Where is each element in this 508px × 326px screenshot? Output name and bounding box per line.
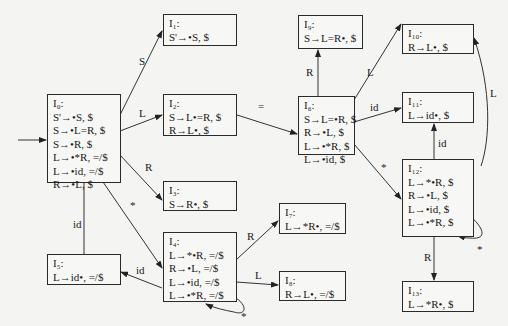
lr-item: S'→•S, $ [169, 31, 231, 45]
state-title: I₆: [304, 99, 349, 113]
lr-item: S→L•=R, $ [169, 111, 231, 125]
state-I13: I₁₃: L→*R•, $ [402, 281, 474, 312]
state-title: I₀: [53, 97, 115, 111]
edge-label-I0-I3: R [145, 162, 152, 173]
state-I11: I₁₁: L→id•, $ [402, 92, 474, 123]
state-I8: I₈: R→L•, =/$ [279, 271, 346, 301]
edge-label-I0-I2: L [139, 108, 146, 119]
edge-label-I12-I13: R [424, 252, 431, 263]
lr-item: L→•*R, =/$ [53, 151, 115, 165]
state-I5: I₅: L→id•, =/$ [47, 254, 121, 285]
lr-item: R→L•, $ [408, 41, 468, 55]
state-title: I₃: [169, 184, 231, 198]
edge-label-I6-I10: L [367, 67, 374, 78]
edge-label-I6-I11: id [370, 102, 379, 113]
edge-label-I4-self: * [241, 311, 247, 322]
state-title: I₂: [169, 97, 231, 111]
lr-item: S→L=•R, $ [304, 113, 349, 127]
lr-item: R→•L, $ [53, 178, 115, 192]
lr-item: R→L•, =/$ [285, 288, 340, 302]
state-I10: I₁₀: R→L•, $ [402, 24, 474, 54]
lr-item: L→id•, =/$ [53, 271, 115, 285]
lr-item: R→•L, =/$ [169, 262, 231, 276]
state-title: I₈: [285, 274, 340, 288]
lr-item: R→L•, $ [169, 124, 231, 138]
lr-item: L→•*R, =/$ [169, 289, 231, 303]
state-I2: I₂: S→L•=R, $ R→L•, $ [163, 94, 237, 136]
state-I1: I₁: S'→•S, $ [163, 14, 237, 46]
lr-item: L→*R•, $ [408, 298, 468, 312]
lr-item: L→•*R, $ [408, 216, 468, 230]
edge-label-I6-I9: R [306, 67, 313, 78]
lr-item: L→•id, =/$ [169, 276, 231, 290]
lr-item: R→•L, $ [408, 189, 468, 203]
lr-item: L→•id, =/$ [53, 165, 115, 179]
state-I9: I₉: S→L=R•, $ [298, 15, 363, 49]
state-I4: I₄: L→*•R, =/$ R→•L, =/$ L→•id, =/$ L→•*… [163, 232, 237, 302]
state-I3: I₃: S→R•, $ [163, 181, 237, 211]
edge-label-I4-I5: id [136, 265, 145, 276]
lr-item: S→•R, $ [53, 138, 115, 152]
state-I7: I₇: L→*R•, =/$ [279, 203, 346, 234]
state-title: I₉: [304, 18, 357, 32]
state-I6: I₆: S→L=•R, $ R→•L, $ L→•*R, $ L→•id, $ [298, 96, 355, 155]
lr-item: L→*•R, $ [408, 176, 468, 190]
edge-label-I12-I11: id [438, 138, 447, 149]
lr-item: L→•*R, $ [304, 140, 349, 154]
state-title: I₁₁: [408, 95, 468, 109]
edge-label-I0-I1: S [139, 56, 145, 67]
state-title: I₅: [53, 257, 115, 271]
edge-label-I2-I6: = [258, 101, 264, 112]
lr-item: L→id•, $ [408, 109, 468, 123]
edge-label-I4-I8: L [255, 270, 262, 281]
state-title: I₁₂: [408, 162, 468, 176]
state-I12: I₁₂: L→*•R, $ R→•L, $ L→•id, $ L→•*R, $ [402, 159, 474, 237]
state-title: I₄: [169, 235, 231, 249]
state-title: I₁₃: [408, 284, 468, 298]
edge-label-I0-I4: * [130, 200, 136, 211]
lr-item: S→•L=R, $ [53, 124, 115, 138]
edge-label-I12-self: * [477, 244, 483, 255]
lr-item: S→L=R•, $ [304, 32, 357, 46]
edge-label-I6-I12: * [381, 162, 387, 173]
lr-item: L→*R•, =/$ [285, 220, 340, 234]
state-title: I₇: [285, 206, 340, 220]
lr-item: S'→•S, $ [53, 111, 115, 125]
lr-item: S→R•, $ [169, 198, 231, 212]
edge-label-I12-I10: L [490, 88, 497, 99]
edge-label-I4-I7: R [247, 231, 254, 242]
state-I0: I₀: S'→•S, $ S→•L=R, $ S→•R, $ L→•*R, =/… [47, 94, 121, 183]
edge-label-I0-I5: id [73, 219, 82, 230]
lr-item: L→•id, $ [408, 203, 468, 217]
state-title: I₁₀: [408, 27, 468, 41]
state-title: I₁: [169, 17, 231, 31]
lr-item: L→*•R, =/$ [169, 249, 231, 263]
lr-item: L→•id, $ [304, 153, 349, 167]
lr-item: R→•L, $ [304, 126, 349, 140]
